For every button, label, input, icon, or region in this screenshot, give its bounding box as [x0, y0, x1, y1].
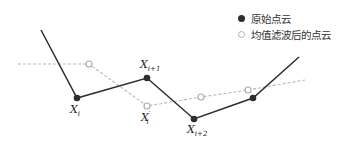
- label-x-i-plus-1: Xi+1: [140, 58, 160, 73]
- filtered-cloud-line: [18, 64, 305, 106]
- original-point: [191, 116, 198, 123]
- filtered-point: [198, 94, 204, 100]
- filled-circle-icon: [238, 15, 245, 22]
- legend-label-filtered: 均值滤波后的点云: [251, 27, 331, 42]
- filtered-point: [245, 87, 251, 93]
- legend: 原始点云 均值滤波后的点云: [238, 10, 331, 42]
- label-x-i-prime: X′i: [141, 110, 149, 126]
- original-point: [74, 95, 81, 102]
- legend-item-filtered: 均值滤波后的点云: [238, 26, 331, 42]
- original-cloud-points: [74, 75, 257, 123]
- label-x-i-plus-2: Xi+2: [187, 123, 207, 138]
- filtered-cloud-points: [86, 61, 251, 109]
- legend-item-original: 原始点云: [238, 10, 331, 26]
- original-point: [250, 95, 257, 102]
- label-x-i: Xi: [70, 103, 80, 118]
- original-point: [144, 75, 151, 82]
- legend-label-original: 原始点云: [251, 11, 291, 26]
- hollow-circle-icon: [238, 31, 245, 38]
- filtered-point: [86, 61, 92, 67]
- filtered-point: [144, 103, 150, 109]
